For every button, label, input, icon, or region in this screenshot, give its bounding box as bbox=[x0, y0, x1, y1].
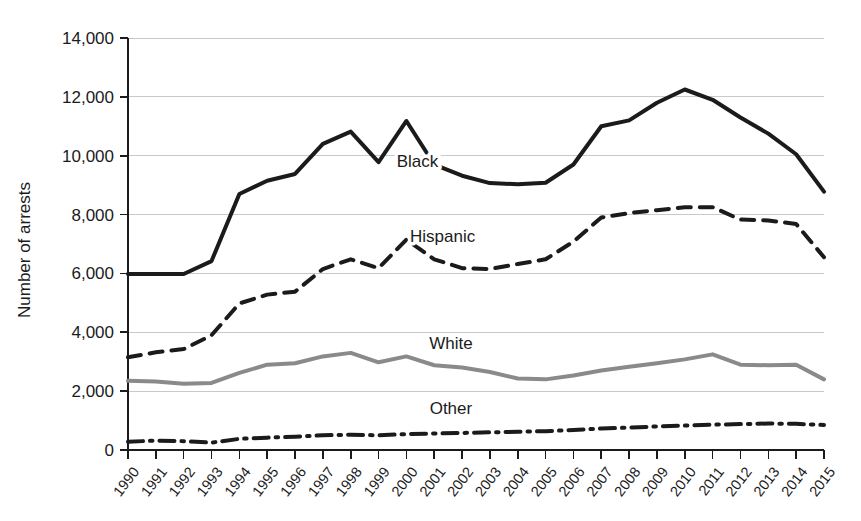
series-line-black bbox=[128, 90, 824, 275]
x-tick-label: 2004 bbox=[500, 464, 532, 499]
series-labels: BlackBlackHispanicHispanicWhiteWhiteOthe… bbox=[397, 152, 476, 418]
x-tick-label: 1992 bbox=[166, 464, 198, 499]
y-axis: 02,0004,0006,0008,00010,00012,00014,000 bbox=[62, 29, 128, 460]
series-label-white: White bbox=[429, 334, 472, 353]
x-tick-label: 2006 bbox=[555, 464, 587, 499]
x-tick-label: 2003 bbox=[472, 464, 504, 499]
x-tick-label: 2009 bbox=[639, 464, 671, 499]
y-axis-title: Number of arrests bbox=[15, 182, 34, 318]
x-tick-label: 1991 bbox=[138, 464, 170, 499]
x-tick-label: 1998 bbox=[333, 464, 365, 499]
series-label-hispanic: Hispanic bbox=[410, 227, 476, 246]
x-tick-label: 1995 bbox=[249, 464, 281, 499]
y-tick-label: 6,000 bbox=[71, 264, 114, 283]
y-tick-label: 0 bbox=[105, 441, 114, 460]
arrests-line-chart: 02,0004,0006,0008,00010,00012,00014,000 … bbox=[0, 0, 861, 521]
x-tick-label: 1993 bbox=[193, 464, 225, 499]
y-tick-label: 14,000 bbox=[62, 29, 114, 48]
x-tick-label: 2015 bbox=[806, 464, 838, 499]
series-label-black: Black bbox=[397, 152, 439, 171]
y-tick-label: 10,000 bbox=[62, 147, 114, 166]
x-tick-label: 2012 bbox=[722, 464, 754, 499]
x-tick-label: 2000 bbox=[388, 464, 420, 499]
y-tick-label: 12,000 bbox=[62, 88, 114, 107]
x-tick-label: 2005 bbox=[527, 464, 559, 499]
x-tick-label: 1999 bbox=[360, 464, 392, 499]
series-line-white bbox=[128, 353, 824, 384]
x-tick-label: 1997 bbox=[305, 464, 337, 499]
data-series bbox=[128, 90, 824, 443]
x-axis: 1990199119921993199419951996199719981999… bbox=[110, 450, 838, 499]
y-tick-label: 8,000 bbox=[71, 206, 114, 225]
series-line-hispanic bbox=[128, 207, 824, 357]
x-tick-label: 2007 bbox=[583, 464, 615, 499]
x-tick-label: 1990 bbox=[110, 464, 142, 499]
series-line-other bbox=[128, 424, 824, 443]
chart-canvas: 02,0004,0006,0008,00010,00012,00014,000 … bbox=[0, 0, 861, 521]
x-tick-label: 2008 bbox=[611, 464, 643, 499]
x-tick-label: 2014 bbox=[778, 464, 810, 499]
x-tick-label: 2011 bbox=[695, 464, 727, 498]
x-tick-label: 2001 bbox=[416, 464, 448, 499]
x-tick-label: 1994 bbox=[221, 464, 253, 499]
x-tick-label: 2002 bbox=[444, 464, 476, 499]
y-tick-label: 2,000 bbox=[71, 382, 114, 401]
y-tick-label: 4,000 bbox=[71, 323, 114, 342]
x-tick-label: 2010 bbox=[667, 464, 699, 499]
x-tick-label: 2013 bbox=[750, 464, 782, 499]
series-label-other: Other bbox=[430, 399, 473, 418]
x-tick-label: 1996 bbox=[277, 464, 309, 499]
